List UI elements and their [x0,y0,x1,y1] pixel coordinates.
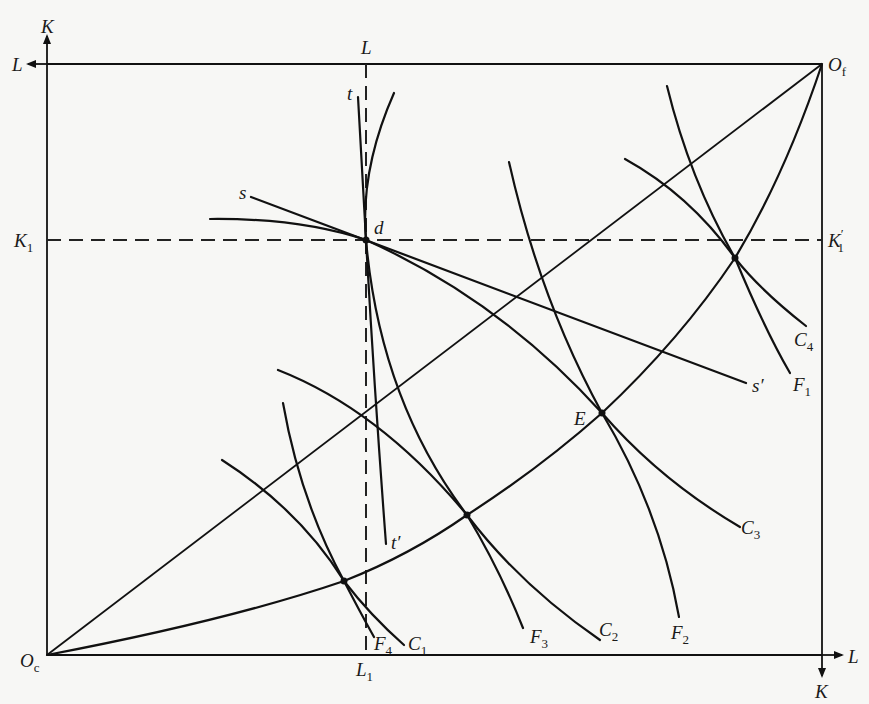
l-axis-label-bottom-right: L [847,646,859,667]
axis-arrows [28,36,842,676]
origin-of-label: Of [828,54,847,79]
svg-text:L1: L1 [355,659,373,684]
isoquant-f3 [365,93,523,628]
origin-oc-label: Oc [20,650,40,675]
f3-label: F3 [529,626,548,651]
point-e-label: E [573,408,586,429]
tangency-point-1 [341,578,348,585]
l-axis-label-top-left: L [11,54,23,75]
svg-text:K1: K1 [13,230,33,255]
c4-label: C4 [794,329,814,354]
k-axis-label: K [40,16,55,37]
svg-text:K′1: K′1 [827,226,844,255]
isoquant-c2 [278,370,600,640]
svg-text:C4: C4 [794,329,814,354]
isoquant-f2 [509,162,679,617]
k1-label: K1 [13,230,33,255]
svg-text:C2: C2 [599,619,618,644]
svg-text:F3: F3 [529,626,548,651]
tangent-s-label: s [239,182,246,203]
point-d-dot [363,237,370,244]
top-l-label: L [360,37,372,58]
f2-label: F2 [670,622,689,647]
k1-prime-label: K′1 [827,226,844,255]
point-d-label: d [374,217,384,238]
svg-text:F1: F1 [792,374,811,399]
tangent-t-prime-label: t′ [391,532,401,553]
tangency-point-4 [732,255,739,262]
diagonal-line [47,64,822,655]
l1-label: L1 [355,659,373,684]
edgeworth-box-diagram: K L L Of Oc K1 K′1 L1 L K d E s s′ t t′ … [0,0,869,704]
k-axis-label-bottom-right: K [814,681,829,702]
svg-text:F2: F2 [670,622,689,647]
isoquant-c3 [210,219,740,527]
c2-label: C2 [599,619,618,644]
tangent-line-ss [251,197,746,383]
f1-label: F1 [792,374,811,399]
svg-text:Of: Of [828,54,847,79]
svg-text:Oc: Oc [20,650,40,675]
svg-text:C3: C3 [741,517,760,542]
tangent-s-prime-label: s′ [752,375,764,396]
tangent-t-label: t [347,83,353,104]
c3-label: C3 [741,517,760,542]
tangency-point-2 [464,512,471,519]
isoquant-c4 [625,159,806,326]
point-e-dot [599,410,606,417]
isoquant-f1 [667,86,790,373]
tangent-line-tt [358,97,386,544]
isoquant-c1 [222,460,404,645]
